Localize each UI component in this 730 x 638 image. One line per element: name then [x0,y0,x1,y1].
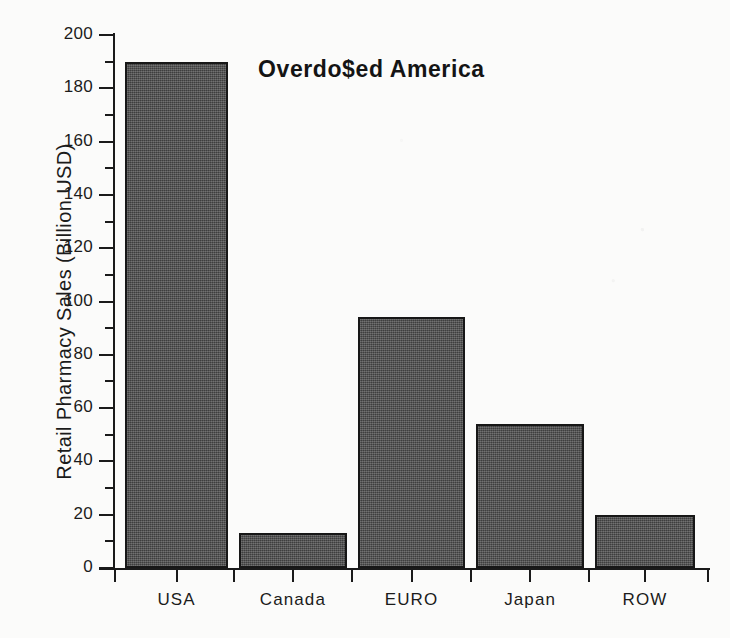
x-tick-edge [114,570,116,582]
y-tick-minor [105,540,114,542]
y-tick-major [99,194,114,196]
y-tick-label: 100 [41,291,93,311]
y-tick-label: 40 [41,450,93,470]
x-tick-edge [588,570,590,582]
y-tick-minor [105,61,114,63]
y-tick-major [99,141,114,143]
y-tick-label: 160 [41,131,93,151]
y-tick-major [99,567,114,569]
y-tick-major [99,354,114,356]
x-tick [176,570,178,582]
y-tick-label: 140 [41,184,93,204]
bar [595,515,695,568]
x-category-label: Canada [260,590,326,610]
y-tick-major [99,460,114,462]
y-tick-label: 80 [41,344,93,364]
y-tick-minor [105,221,114,223]
x-tick [644,570,646,582]
x-category-label: EURO [385,590,439,610]
y-tick-major [99,34,114,36]
bar-chart-plot: Overdo$ed America Retail Pharmacy Sales … [0,0,730,638]
y-tick-label: 120 [41,237,93,257]
y-tick-minor [105,434,114,436]
y-tick-minor [105,114,114,116]
x-tick [292,570,294,582]
x-category-label: Japan [504,590,556,610]
y-tick-major [99,407,114,409]
y-tick-minor [105,487,114,489]
bar [125,62,228,568]
y-tick-minor [105,380,114,382]
x-category-label: ROW [623,590,668,610]
y-tick-major [99,514,114,516]
x-tick-edge [233,570,235,582]
x-tick-edge [470,570,472,582]
x-tick-edge [351,570,353,582]
chart-page: Overdo$ed America Retail Pharmacy Sales … [0,0,730,638]
y-tick-label: 20 [41,504,93,524]
y-tick-label: 0 [41,557,93,577]
bar [239,533,347,568]
y-tick-minor [105,274,114,276]
bar [358,317,466,568]
x-tick [411,570,413,582]
y-tick-label: 200 [41,24,93,44]
x-category-label: USA [157,590,195,610]
y-axis-title: Retail Pharmacy Sales (Billion USD) [53,52,76,572]
y-tick-label: 60 [41,397,93,417]
bar [476,424,584,568]
x-tick [529,570,531,582]
y-tick-major [99,247,114,249]
x-tick-edge [707,570,709,582]
y-tick-label: 180 [41,77,93,97]
x-axis-line [99,568,710,570]
chart-title: Overdo$ed America [258,56,485,83]
y-tick-major [99,87,114,89]
y-tick-minor [105,327,114,329]
y-tick-minor [105,167,114,169]
y-tick-major [99,301,114,303]
